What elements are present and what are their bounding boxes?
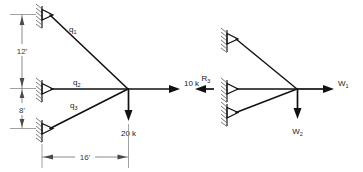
force-10k: 10 k: [128, 79, 200, 93]
member-q3: [50, 89, 128, 129]
dim-arrow-16-left: [44, 155, 54, 160]
member-bottom-right: [236, 89, 297, 113]
force-20k-arrowhead: [125, 110, 133, 121]
dimension-horizontal-group: 16': [42, 124, 129, 168]
wall-hatching-middle-right: [221, 78, 227, 103]
dim-arrow-12-top: [20, 16, 25, 25]
force-10k-arrowhead: [169, 85, 180, 93]
support-bottom-left: [36, 118, 53, 143]
wall-hatching-top: [36, 4, 42, 29]
dim-label-12ft: 12': [17, 47, 28, 56]
force-W2: W2: [292, 89, 303, 137]
reaction-R3-label: R3: [202, 74, 211, 84]
dim-arrow-8-bottom: [20, 119, 25, 127]
force-W2-arrowhead: [294, 108, 302, 119]
force-20k: 20 k: [121, 89, 137, 138]
diagram-canvas: 12' 8': [0, 0, 363, 172]
force-10k-label: 10 k: [184, 79, 200, 88]
dim-arrow-8-top: [20, 90, 25, 98]
dim-label-8ft: 8': [19, 106, 25, 115]
wall-hatching-middle: [36, 78, 42, 103]
member-label-q1: q1: [69, 25, 77, 35]
member-label-q2: q2: [73, 78, 81, 88]
force-20k-label: 20 k: [121, 129, 137, 138]
pin-triangle-top: [42, 10, 53, 21]
support-middle-right: [221, 78, 238, 103]
dim-arrow-12-bottom: [20, 78, 25, 87]
wall-hatching-bottom: [36, 118, 42, 143]
member-q1: [50, 15, 128, 89]
dimension-vertical-group: 12' 8': [10, 15, 36, 129]
support-middle-left: [36, 78, 53, 103]
force-W2-label: W2: [292, 127, 303, 137]
member-label-q3: q3: [70, 101, 78, 111]
dim-arrow-16-right: [118, 155, 128, 160]
support-top-right: [221, 28, 238, 53]
truss-diagram-svg: 12' 8': [0, 0, 363, 172]
force-W1: W1: [297, 79, 349, 93]
wall-hatching-bottom-right: [221, 102, 227, 127]
right-diagram: R3: [195, 28, 349, 137]
dim-label-16ft: 16': [80, 153, 91, 162]
wall-hatching-top-right: [221, 28, 227, 53]
force-W1-label: W1: [338, 79, 349, 89]
left-diagram: 12' 8': [10, 4, 200, 168]
force-W1-arrowhead: [323, 85, 334, 93]
member-top-right: [236, 39, 297, 89]
pin-triangle-bottom: [42, 124, 53, 135]
support-bottom-right: [221, 102, 238, 127]
